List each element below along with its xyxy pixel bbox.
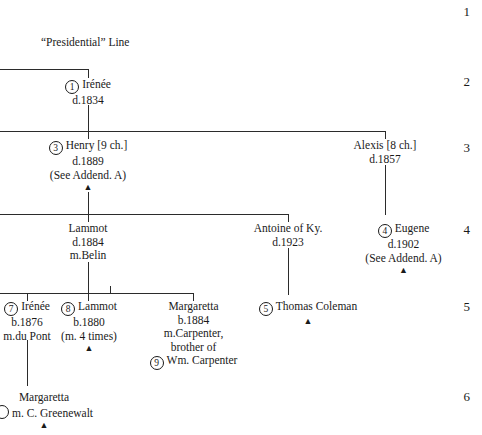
node-irenee-1[interactable]: 1Irénée d.1834 (38, 78, 138, 108)
node-henry-3-headline: 3Henry [9 ch.] (18, 139, 158, 155)
node-alexis-name: Alexis [8 ch.] (325, 139, 445, 153)
generation-number-6: 6 (454, 389, 470, 405)
descendant-triangle-icon-greenewalt: ▲ (0, 420, 102, 431)
generation-number-3: 3 (454, 140, 470, 156)
node-lammot-marriage: m.Belin (38, 249, 138, 263)
descendant-triangle-icon-eugene: ▲ (336, 265, 471, 276)
node-lammot-8-marriage: (m. 4 times) (41, 330, 137, 344)
node-henry-3-note: (See Addend. A) (18, 169, 158, 183)
descendant-triangle-icon-lammot-8: ▲ (41, 343, 137, 354)
node-thomas-coleman-5-headline: 5Thomas Coleman (241, 300, 375, 316)
connector-gen5-sibling-bar (0, 293, 194, 294)
node-margaretta-greenewalt-marriage: m. C. Greenewalt (12, 407, 93, 419)
node-lammot-8-name: Lammot (78, 300, 117, 312)
key-circle-8: 8 (61, 302, 75, 316)
connector-gen3-to-henry-drop (88, 131, 89, 139)
node-irenee-1-headline: 1Irénée (38, 78, 138, 94)
generation-number-5: 5 (454, 299, 470, 315)
node-antoine-death: d.1923 (233, 236, 343, 250)
connector-alexis-to-eugene-drop (385, 165, 386, 215)
connector-gen4-to-antoine-drop (288, 214, 289, 222)
node-thomas-coleman-5-name: Thomas Coleman (276, 300, 357, 312)
key-circle-3: 3 (49, 141, 63, 155)
connector-gen1-to-irenee-drop (88, 69, 89, 78)
node-eugene-4-name: Eugene (395, 222, 429, 234)
node-eugene-4-headline: 4Eugene (336, 222, 471, 238)
node-henry-3-name: Henry [9 ch.] (66, 139, 128, 151)
key-circle-partial-gen6 (0, 405, 9, 419)
descendant-triangle-icon-coleman: ▲ (241, 316, 375, 327)
connector-gen4-to-lammot-drop (88, 214, 89, 222)
node-eugene-4-death: d.1902 (336, 238, 471, 252)
node-margaretta-greenewalt-name: Margaretta (0, 391, 102, 405)
node-margaretta-1884[interactable]: Margaretta b.1884 m.Carpenter, brother o… (143, 300, 244, 370)
connector-gen3-sibling-bar (0, 131, 386, 132)
node-margaretta-1884-spouse-headline: 9Wm. Carpenter (143, 354, 244, 370)
connector-henry-to-gen4-drop (88, 192, 89, 215)
generation-number-2: 2 (454, 74, 470, 90)
connector-gen1-sibling-bar (0, 69, 89, 70)
node-lammot-8-birth: b.1880 (41, 316, 137, 330)
node-margaretta-1884-birth: b.1884 (143, 314, 244, 328)
connector-irenee7-to-gen6-drop (27, 340, 28, 386)
connector-gen3-to-alexis-drop (385, 131, 386, 139)
key-circle-4: 4 (378, 224, 392, 238)
descendant-triangle-icon-henry: ▲ (18, 182, 158, 193)
node-margaretta-1884-spouse: Wm. Carpenter (167, 354, 238, 366)
key-circle-1: 1 (65, 80, 79, 94)
node-lammot-death: d.1884 (38, 236, 138, 250)
genealogy-chart: 1 2 3 4 5 6 “Presidential” Line 1Irénée … (0, 0, 482, 435)
node-lammot-8-headline: 8Lammot (41, 300, 137, 316)
node-thomas-coleman-5[interactable]: 5Thomas Coleman ▲ (241, 300, 375, 327)
node-alexis-death: d.1857 (325, 153, 445, 167)
node-henry-3-death: d.1889 (18, 155, 158, 169)
node-antoine-name: Antoine of Ky. (233, 222, 343, 236)
node-alexis[interactable]: Alexis [8 ch.] d.1857 (325, 139, 445, 166)
node-lammot-8[interactable]: 8Lammot b.1880 (m. 4 times) ▲ (41, 300, 137, 354)
generation-number-1: 1 (454, 4, 470, 20)
key-circle-9: 9 (150, 356, 164, 370)
key-circle-5: 5 (259, 302, 273, 316)
node-margaretta-greenewalt-headline: m. C. Greenewalt (0, 405, 102, 421)
node-margaretta-1884-marriage: m.Carpenter, (143, 327, 244, 341)
node-margaretta-1884-relation: brother of (143, 341, 244, 355)
node-lammot[interactable]: Lammot d.1884 m.Belin (38, 222, 138, 263)
node-margaretta-1884-name: Margaretta (143, 300, 244, 314)
connector-gen4-sibling-bar (0, 214, 289, 215)
connector-lammot-to-gen5-drop (88, 262, 89, 294)
node-irenee-1-name: Irénée (82, 78, 111, 90)
node-irenee-1-death: d.1834 (38, 94, 138, 108)
node-lammot-name: Lammot (38, 222, 138, 236)
connector-gen5-riser (110, 286, 111, 294)
chart-title: “Presidential” Line (41, 36, 129, 48)
node-antoine[interactable]: Antoine of Ky. d.1923 (233, 222, 343, 249)
key-circle-7: 7 (4, 302, 18, 316)
node-eugene-4-note: (See Addend. A) (336, 252, 471, 266)
connector-antoine-to-coleman-drop (288, 248, 289, 295)
node-henry-3[interactable]: 3Henry [9 ch.] d.1889 (See Addend. A) ▲ (18, 139, 158, 193)
connector-irenee-to-gen3-drop (88, 105, 89, 132)
node-eugene-4[interactable]: 4Eugene d.1902 (See Addend. A) ▲ (336, 222, 471, 276)
node-margaretta-greenewalt[interactable]: Margaretta m. C. Greenewalt ▲ (0, 391, 102, 431)
